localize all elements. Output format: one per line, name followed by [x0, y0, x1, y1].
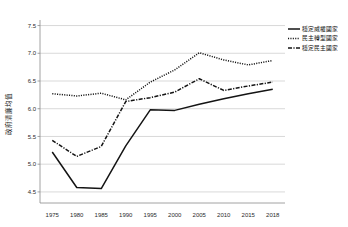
- x-tick-label: 2018: [266, 212, 280, 218]
- series-line-2: [52, 53, 273, 100]
- x-tick-label: 1975: [46, 212, 60, 218]
- x-tick-label: 2015: [242, 212, 256, 218]
- y-tick-label: 6.0: [28, 106, 37, 112]
- y-tick-label: 4.5: [28, 189, 37, 195]
- data-series: [52, 53, 273, 189]
- y-tick-labels: 7.57.06.56.05.55.04.5: [28, 23, 40, 195]
- y-tick-label: 6.5: [28, 78, 37, 84]
- x-tick-label: 1985: [95, 212, 109, 218]
- x-tick-label: 2000: [168, 212, 182, 218]
- gridlines: [40, 26, 285, 192]
- x-tick-label: 1990: [119, 212, 133, 218]
- legend-label-1: 穩定威權國家: [302, 25, 338, 33]
- series-line-1: [52, 89, 273, 188]
- chart-canvas: 7.57.06.56.05.55.04.5 197519801985199019…: [0, 0, 348, 227]
- y-tick-label: 5.5: [28, 134, 37, 140]
- line-chart: 7.57.06.56.05.55.04.5 197519801985199019…: [0, 0, 348, 227]
- series-line-3: [52, 79, 273, 157]
- legend-label-3: 穩定民主國家: [302, 44, 338, 52]
- legend-label-2: 民主轉型國家: [302, 34, 338, 42]
- x-tick-label: 2010: [217, 212, 231, 218]
- y-tick-label: 7.0: [28, 50, 37, 56]
- x-tick-labels: 1975198019851990199520002005201020152018: [46, 212, 281, 218]
- x-tick-label: 2005: [193, 212, 207, 218]
- y-tick-label: 7.5: [28, 23, 37, 29]
- legend: 穩定威權國家民主轉型國家穩定民主國家: [288, 25, 338, 52]
- y-axis-title: 政府清廉均值: [4, 93, 13, 135]
- y-tick-label: 5.0: [28, 161, 37, 167]
- x-tick-label: 1995: [144, 212, 158, 218]
- x-tick-label: 1980: [70, 212, 84, 218]
